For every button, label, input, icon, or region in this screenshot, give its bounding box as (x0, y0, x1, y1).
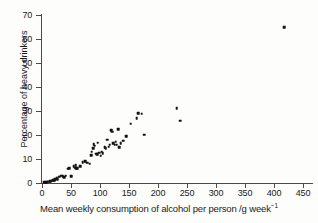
x-tick-label-300: 300 (201, 189, 231, 198)
x-tick-label-100: 100 (85, 189, 115, 198)
y-tick-60 (36, 39, 41, 40)
data-point (118, 146, 121, 149)
data-point (179, 120, 182, 123)
data-point (140, 113, 143, 116)
y-tick-20 (36, 135, 41, 136)
x-tick-label-450: 450 (288, 189, 318, 198)
data-point (96, 141, 99, 144)
x-tick-label-150: 150 (114, 189, 144, 198)
plot-area (42, 15, 303, 183)
y-tick-label-0: 0 (27, 179, 32, 188)
scatter-chart-figure: 010203040506070 050100150200250300350400… (0, 0, 318, 223)
data-point (91, 151, 94, 154)
data-point (129, 122, 132, 125)
data-point (56, 178, 59, 181)
x-axis-line (41, 183, 313, 184)
data-point (106, 139, 109, 142)
y-tick-30 (36, 111, 41, 112)
y-axis-label: Percentage of heavy drinkers (19, 9, 29, 169)
data-point (283, 26, 286, 29)
data-point (79, 165, 82, 168)
y-tick-70 (36, 15, 41, 16)
y-tick-0 (36, 183, 41, 184)
data-point (68, 167, 71, 170)
y-tick-50 (36, 63, 41, 64)
data-point (64, 175, 67, 178)
data-point (117, 128, 120, 131)
x-axis-label-text: Mean weekly consumption of alcohol per p… (40, 203, 271, 214)
x-tick-label-250: 250 (172, 189, 202, 198)
x-tick-label-400: 400 (259, 189, 289, 198)
data-point (70, 175, 73, 178)
x-axis-label: Mean weekly consumption of alcohol per p… (0, 203, 318, 214)
data-point (90, 154, 93, 157)
data-point (93, 145, 96, 148)
x-axis-label-exponent: −1 (271, 202, 278, 209)
data-point (109, 143, 112, 146)
data-point (125, 135, 128, 138)
data-point (102, 152, 105, 155)
x-tick-label-200: 200 (143, 189, 173, 198)
data-point (111, 131, 114, 134)
x-tick-label-0: 0 (27, 189, 57, 198)
data-point (122, 139, 125, 142)
data-point (137, 112, 140, 115)
data-point (88, 162, 91, 165)
data-point (143, 133, 146, 136)
y-tick-40 (36, 87, 41, 88)
data-point (120, 142, 123, 145)
data-point (99, 155, 102, 158)
data-point (135, 117, 138, 120)
x-tick-label-50: 50 (56, 189, 86, 198)
data-point (92, 147, 95, 150)
x-tick-label-350: 350 (230, 189, 260, 198)
data-point (175, 107, 178, 110)
y-tick-10 (36, 159, 41, 160)
